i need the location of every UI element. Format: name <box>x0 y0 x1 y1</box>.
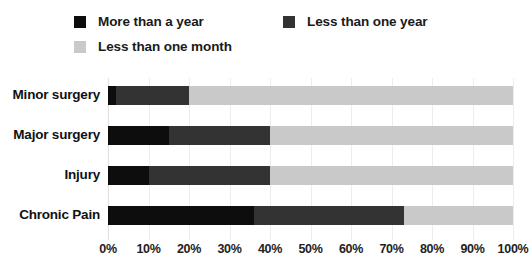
bar-segment[interactable] <box>189 86 513 105</box>
category-label: Chronic Pain <box>19 207 100 222</box>
bar-segment[interactable] <box>108 86 116 105</box>
bar-segment[interactable] <box>116 86 189 105</box>
x-tick-label: 70% <box>379 242 403 256</box>
x-tick-label: 20% <box>177 242 201 256</box>
x-tick-label: 0% <box>99 242 116 256</box>
bar-segment[interactable] <box>270 126 513 145</box>
bar-segment[interactable] <box>169 126 270 145</box>
bar-segment[interactable] <box>270 166 513 185</box>
x-tick-label: 30% <box>217 242 241 256</box>
x-axis-tick-labels: 0%10%20%30%40%50%60%70%80%90%100% <box>108 242 513 266</box>
y-axis-category-labels: Minor surgery Major surgery Injury Chron… <box>0 78 104 240</box>
legend-swatch-icon <box>283 16 295 28</box>
legend-item-less-than-one-year[interactable]: Less than one year <box>283 14 428 29</box>
bar-segment[interactable] <box>108 126 169 145</box>
x-tick-label: 90% <box>460 242 484 256</box>
legend-item-label: Less than one year <box>307 14 428 29</box>
stacked-bar-chart: More than a year Less than one year Less… <box>0 0 531 274</box>
x-tick-label: 100% <box>498 242 529 256</box>
category-label: Minor surgery <box>13 87 100 102</box>
bar-row[interactable] <box>108 166 513 185</box>
legend-item-less-than-one-month[interactable]: Less than one month <box>74 39 232 54</box>
bar-segment[interactable] <box>254 206 404 225</box>
chart-legend: More than a year Less than one year Less… <box>0 8 531 64</box>
x-tick-label: 60% <box>339 242 363 256</box>
category-label: Major surgery <box>13 127 100 142</box>
x-tick-label: 10% <box>136 242 160 256</box>
plot-area <box>108 78 513 240</box>
legend-swatch-icon <box>74 16 86 28</box>
bar-row[interactable] <box>108 206 513 225</box>
gridline <box>513 78 514 240</box>
legend-item-label: More than a year <box>98 14 204 29</box>
legend-swatch-icon <box>74 41 86 53</box>
legend-item-label: Less than one month <box>98 39 232 54</box>
bar-segment[interactable] <box>108 166 149 185</box>
category-label: Injury <box>64 167 100 182</box>
x-tick-label: 40% <box>258 242 282 256</box>
legend-item-more-than-a-year[interactable]: More than a year <box>74 14 204 29</box>
x-tick-label: 50% <box>298 242 322 256</box>
bar-segment[interactable] <box>404 206 513 225</box>
bar-segment[interactable] <box>108 206 254 225</box>
bar-row[interactable] <box>108 86 513 105</box>
x-tick-label: 80% <box>420 242 444 256</box>
bar-row[interactable] <box>108 126 513 145</box>
bar-segment[interactable] <box>149 166 271 185</box>
